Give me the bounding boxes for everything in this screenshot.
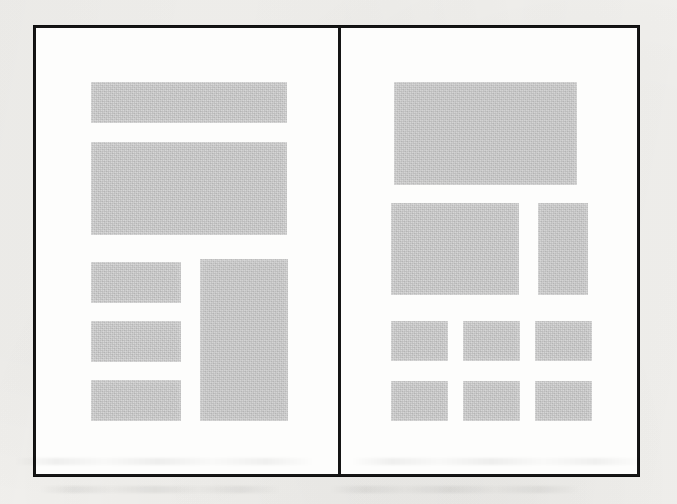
feature-main-block-block — [391, 203, 519, 295]
grid-cell-r1c3-block — [535, 321, 592, 361]
grid-cell-r2c2-block — [463, 381, 520, 421]
layout-diagram-frame — [33, 25, 640, 477]
right-page-layout-panel — [341, 28, 643, 474]
feature-side-block-block — [538, 203, 588, 295]
scan-page-background — [0, 0, 677, 504]
left-page-layout-panel — [36, 28, 338, 474]
text-column-row-3-block — [91, 380, 181, 421]
grid-cell-r2c1-block — [391, 381, 448, 421]
text-column-row-2-block — [91, 321, 181, 362]
grid-cell-r2c3-block — [535, 381, 592, 421]
text-column-row-1-block — [91, 262, 181, 303]
bleed-through-line — [330, 486, 580, 493]
hero-banner-block — [394, 82, 577, 185]
grid-cell-r1c2-block — [463, 321, 520, 361]
grid-cell-r1c1-block — [391, 321, 448, 361]
hero-content-block-block — [91, 142, 287, 235]
header-banner-block — [91, 82, 287, 123]
sidebar-tall-block-block — [200, 259, 288, 421]
bleed-through-line — [40, 486, 280, 493]
